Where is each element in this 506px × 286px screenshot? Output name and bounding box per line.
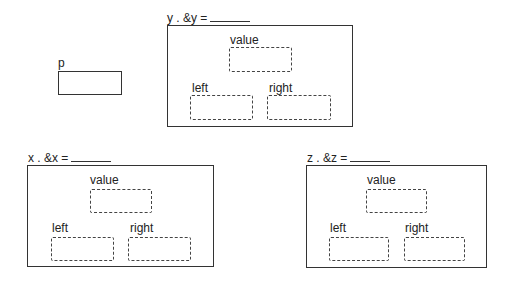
- right-label: right: [269, 82, 292, 94]
- address-blank[interactable]: [71, 151, 111, 162]
- value-field[interactable]: [90, 189, 152, 213]
- node-x-header-text: x . &x =: [28, 151, 68, 165]
- left-label: left: [192, 82, 208, 94]
- left-field[interactable]: [190, 95, 253, 120]
- value-field[interactable]: [366, 189, 427, 213]
- node-z-header: z . &z =: [307, 151, 390, 164]
- address-blank[interactable]: [210, 11, 250, 22]
- value-field[interactable]: [229, 47, 292, 72]
- node-y-header: y . &y =: [167, 11, 250, 24]
- value-label: value: [230, 34, 259, 46]
- left-field[interactable]: [51, 237, 114, 261]
- node-y-header-text: y . &y =: [167, 11, 207, 25]
- right-field[interactable]: [404, 237, 465, 261]
- left-field[interactable]: [329, 237, 389, 261]
- value-label: value: [367, 174, 396, 186]
- address-blank[interactable]: [350, 151, 390, 162]
- node-z-header-text: z . &z =: [307, 151, 347, 165]
- left-label: left: [330, 222, 346, 234]
- right-field[interactable]: [128, 237, 191, 261]
- right-field[interactable]: [267, 95, 331, 120]
- right-label: right: [130, 222, 153, 234]
- node-x-header: x . &x =: [28, 151, 111, 164]
- right-label: right: [405, 222, 428, 234]
- pointer-label: p: [58, 57, 65, 69]
- pointer-box: [58, 71, 122, 95]
- left-label: left: [52, 222, 68, 234]
- value-label: value: [90, 174, 119, 186]
